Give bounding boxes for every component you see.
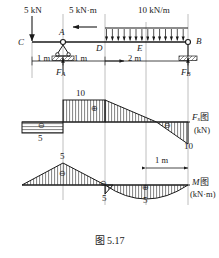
moment-dimension-label: 1 m bbox=[155, 156, 168, 165]
moment-title-tail: 图 bbox=[200, 177, 209, 187]
distributed-load-label: 10 kN/m bbox=[138, 6, 170, 15]
shear-title-tail: 图 bbox=[200, 112, 209, 122]
reaction-a-subscript: A bbox=[62, 70, 66, 77]
shear-region-db-pos bbox=[105, 100, 157, 122]
shear-sign-positive: ⊕ bbox=[91, 105, 98, 113]
dimension-ca: 1 m bbox=[37, 54, 50, 63]
beam-node-b: B bbox=[196, 37, 202, 46]
moment-sign-negative-left: ⊖ bbox=[59, 170, 66, 178]
beam-node-c: C bbox=[18, 38, 24, 47]
moment-value-span: 5 bbox=[143, 196, 148, 205]
moment-sign-negative-d: ⊖ bbox=[100, 180, 107, 188]
beam-node-e: E bbox=[137, 44, 143, 53]
shear-value-mid: 10 bbox=[76, 89, 85, 98]
moment-diagram-title: M图 bbox=[192, 178, 209, 187]
point-load-label: 5 kN bbox=[24, 6, 42, 15]
dimension-db: 2 m bbox=[128, 54, 141, 63]
reaction-b-subscript: B bbox=[187, 70, 191, 77]
reaction-b-label: FB bbox=[181, 68, 190, 78]
moment-value-d: 5 bbox=[102, 194, 107, 203]
shear-sign-negative-left: ⊖ bbox=[38, 122, 45, 130]
moment-load-label: 5 kN·m bbox=[69, 6, 97, 15]
shear-diagram-title: Fs图 bbox=[192, 113, 209, 123]
beam-diagram bbox=[32, 16, 197, 74]
moment-title-symbol: M bbox=[192, 177, 200, 187]
shear-diagram-unit: (kN) bbox=[194, 126, 210, 135]
distributed-load bbox=[105, 28, 188, 41]
moment-diagram-unit: (kN·m) bbox=[190, 190, 216, 199]
shear-region-ad bbox=[63, 100, 105, 122]
beam-shear-moment-figure bbox=[0, 0, 219, 258]
shear-value-right: 10 bbox=[184, 142, 193, 151]
figure-caption: 图 5.17 bbox=[0, 232, 219, 247]
moment-value-peak: 5 bbox=[60, 152, 65, 161]
reaction-a-label: FA bbox=[56, 68, 65, 78]
shear-sign-negative-right: ⊖ bbox=[164, 122, 171, 130]
shear-value-left: 5 bbox=[38, 134, 43, 143]
beam-node-d: D bbox=[96, 44, 103, 53]
moment-sign-positive: ⊕ bbox=[142, 184, 149, 192]
beam-node-a: A bbox=[59, 28, 65, 37]
dimension-ad: 1 m bbox=[74, 54, 87, 63]
